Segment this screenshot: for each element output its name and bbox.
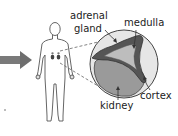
pointer-arrow-icon <box>0 51 32 69</box>
body-kidneys <box>51 52 61 59</box>
speck <box>4 109 6 111</box>
adrenal-gland-diagram: adrenal gland medulla cortex kidney <box>0 0 178 136</box>
human-body-outline <box>36 23 74 122</box>
label-gland: gland <box>74 24 102 34</box>
label-adrenal: adrenal <box>70 11 108 21</box>
magnified-view-circle <box>90 30 158 98</box>
label-medulla: medulla <box>124 18 164 28</box>
label-cortex: cortex <box>140 91 172 101</box>
label-kidney: kidney <box>100 101 133 111</box>
